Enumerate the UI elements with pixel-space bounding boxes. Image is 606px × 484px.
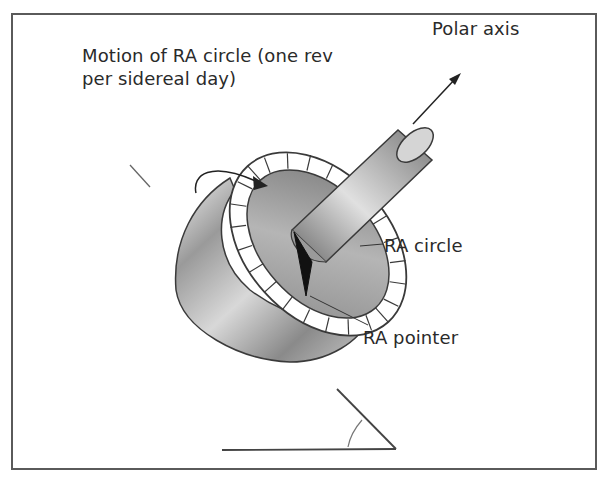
polar-axis-arrow: [413, 73, 461, 124]
ra-circle-label: RA circle: [384, 234, 463, 257]
latitude-angle-indicator: [222, 389, 396, 450]
ra-pointer-label: RA pointer: [363, 326, 458, 349]
motion-label-line2: per sidereal day): [82, 67, 236, 90]
polar-axis-label: Polar axis: [432, 17, 519, 40]
axis-marker-line: [130, 165, 150, 187]
motion-label-line1: Motion of RA circle (one rev: [82, 44, 333, 67]
